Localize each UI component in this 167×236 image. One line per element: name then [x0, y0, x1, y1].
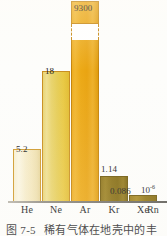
figure-container: 5.2 18 9300 1.14 0.086 10-6 He Ne Ar Kr … [0, 0, 167, 236]
bar-ar-axis-break [71, 24, 99, 40]
tick-label-kr: Kr [100, 204, 128, 215]
bar-he [13, 149, 41, 202]
tick-label-rn: Rn [139, 204, 167, 215]
x-axis-tick-labels: He Ne Ar Kr Xe Rn [0, 204, 167, 219]
figure-number: 图 7-5 [6, 224, 36, 236]
chart-plot-area: 5.2 18 9300 1.14 0.086 10-6 [0, 0, 167, 202]
bar-ne [42, 71, 70, 202]
exponent-base: 10 [141, 185, 150, 195]
value-label-kr: 1.14 [101, 164, 117, 174]
value-label-rn-exponent: 10-6 [141, 185, 155, 195]
tick-label-he: He [13, 204, 41, 215]
value-label-ne: 18 [45, 66, 54, 76]
tick-label-ne: Ne [42, 204, 70, 215]
exponent-power: -6 [150, 184, 155, 190]
x-axis-line [8, 201, 167, 203]
figure-caption-text: 稀有气体在地壳中的丰 [44, 224, 157, 236]
figure-caption: 图 7-5稀有气体在地壳中的丰 [0, 221, 167, 236]
value-label-he: 5.2 [16, 144, 28, 154]
tick-label-ar: Ar [71, 204, 99, 215]
value-label-xe: 0.086 [110, 186, 131, 196]
value-label-ar: 9300 [74, 3, 92, 13]
bar-ar-lower-segment [71, 32, 99, 202]
